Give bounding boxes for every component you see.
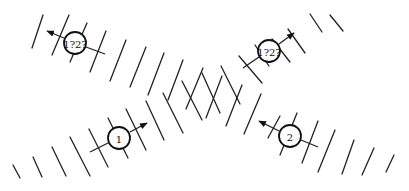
node-bottom-left: 1 bbox=[90, 123, 147, 152]
node-top-left: 1?2? bbox=[47, 31, 105, 54]
node-label: 1?2? bbox=[63, 39, 86, 50]
node-bottom-right: 2 bbox=[259, 121, 318, 147]
crossing-bands-diagram: 1?2? 1?2? 1 2 bbox=[0, 0, 409, 191]
node-label: 2 bbox=[287, 132, 293, 143]
node-label: 1?2? bbox=[257, 47, 280, 58]
node-label: 1 bbox=[116, 134, 122, 145]
node-top-right: 1?2? bbox=[243, 33, 294, 68]
